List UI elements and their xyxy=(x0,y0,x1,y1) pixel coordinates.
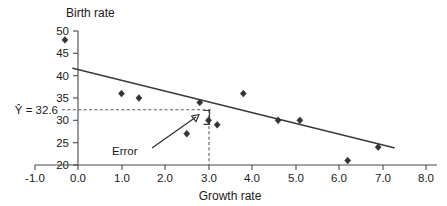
predicted-value-label: Ŷ = 32.6 xyxy=(15,104,58,116)
data-point xyxy=(297,117,303,124)
data-point xyxy=(184,130,190,137)
y-tick-marks xyxy=(73,31,78,165)
y-axis-title: Birth rate xyxy=(66,6,115,20)
x-tick-marks xyxy=(35,165,426,170)
data-point xyxy=(240,90,246,97)
regression-line xyxy=(73,68,394,148)
x-tick-label-0: 0.0 xyxy=(70,172,86,184)
error-annotation-label: Error xyxy=(112,145,138,157)
y-tick-label-40: 40 xyxy=(56,70,69,82)
x-tick-label-7: 7.0 xyxy=(375,172,391,184)
data-point xyxy=(345,157,351,164)
data-point xyxy=(136,95,142,102)
data-point xyxy=(206,117,212,124)
x-tick-label-5: 5.0 xyxy=(288,172,304,184)
y-tick-label-45: 45 xyxy=(56,47,69,59)
error-leader-arrow xyxy=(152,115,199,149)
data-points-layer xyxy=(62,37,381,164)
data-point xyxy=(119,90,125,97)
x-tick-label-6: 6.0 xyxy=(331,172,347,184)
x-tick-label-1: 1.0 xyxy=(114,172,130,184)
x-tick-label-4: 4.0 xyxy=(244,172,260,184)
y-tick-label-30: 30 xyxy=(56,114,69,126)
x-tick-label-2: 2.0 xyxy=(157,172,173,184)
data-point xyxy=(62,37,68,44)
x-tick-label-3: 3.0 xyxy=(201,172,217,184)
x-tick-label-8: 8.0 xyxy=(418,172,434,184)
y-tick-label-50: 50 xyxy=(56,25,69,37)
x-axis-title: Growth rate xyxy=(199,189,262,203)
data-point xyxy=(214,121,220,128)
y-tick-label-25: 25 xyxy=(56,137,69,149)
y-tick-label-35: 35 xyxy=(56,92,69,104)
x-tick-label-neg1: -1.0 xyxy=(25,172,45,184)
scatter-plot-figure: Birth rate 50 45 40 35 30 25 20 xyxy=(0,0,447,206)
chart-canvas: Birth rate 50 45 40 35 30 25 20 xyxy=(0,0,447,206)
